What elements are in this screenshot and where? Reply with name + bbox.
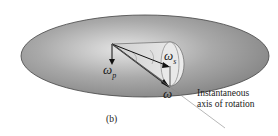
omega-p-label: ωp [103,62,116,80]
annotation-instantaneous-axis: Instantaneous axis of rotation [197,88,255,110]
omega-s-label: ωs [164,48,176,66]
diagram-canvas [0,0,278,136]
panel-label: (b) [106,114,117,125]
omega-label: ω [163,86,172,102]
